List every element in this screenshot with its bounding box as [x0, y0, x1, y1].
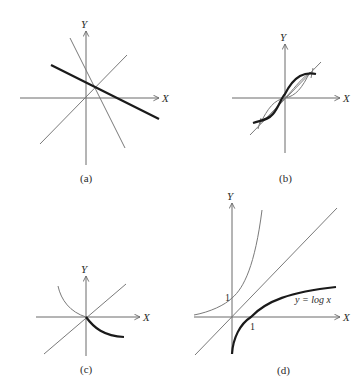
y-axis-label: Y	[227, 190, 235, 202]
panel-b: Y X (b)	[232, 31, 351, 185]
caption-d: (d)	[277, 364, 290, 377]
caption-a: (a)	[80, 172, 93, 185]
panel-d: Y X 1 1 y = log x (d)	[194, 190, 351, 377]
y-axis-label: Y	[280, 31, 288, 43]
log-curve-label: y = log x	[294, 294, 331, 305]
y-axis-label: Y	[81, 18, 89, 30]
y-tick-one: 1	[225, 292, 230, 303]
identity-line	[195, 208, 337, 355]
panel-a: Y X (a)	[20, 18, 170, 185]
reflected-curve	[58, 286, 86, 317]
panel-c: Y X (c)	[36, 263, 151, 376]
x-axis-label: X	[342, 92, 351, 104]
caption-b: (b)	[279, 172, 292, 185]
x-axis-label: X	[142, 311, 151, 323]
x-tick-one: 1	[250, 321, 255, 332]
y-axis-label: Y	[81, 263, 89, 275]
reflected-line	[70, 38, 125, 148]
identity-line	[40, 55, 127, 144]
x-axis-label: X	[342, 311, 351, 323]
original-line	[51, 65, 159, 119]
original-curve	[86, 317, 124, 337]
x-axis-label: X	[161, 92, 170, 104]
identity-line	[44, 284, 126, 354]
figure-canvas: Y X (a) Y X (b) Y X (c) Y X	[0, 0, 364, 381]
caption-c: (c)	[80, 363, 93, 376]
